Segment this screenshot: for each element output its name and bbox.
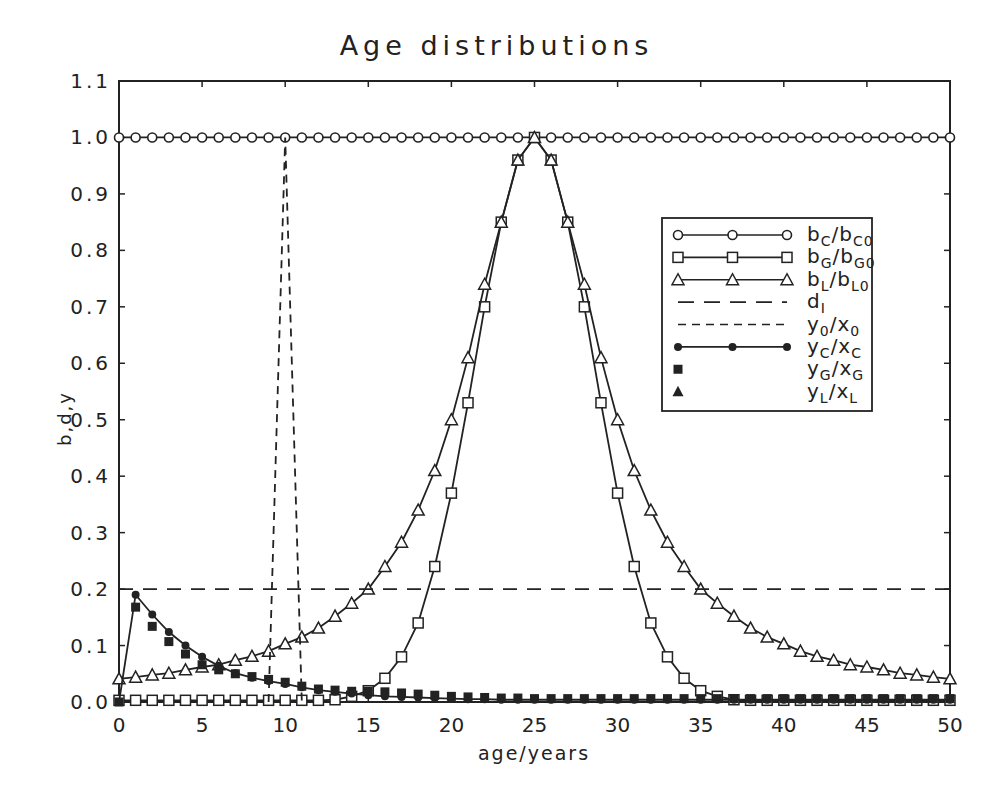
x-tick-label: 20 bbox=[439, 713, 464, 737]
triangle-marker-icon bbox=[462, 352, 474, 363]
filled-square-marker-icon bbox=[946, 694, 955, 703]
square-marker-icon bbox=[247, 695, 257, 705]
filled-square-marker-icon bbox=[414, 690, 423, 699]
circle-marker-icon bbox=[630, 133, 639, 142]
filled-square-marker-icon bbox=[674, 365, 683, 374]
circle-marker-icon bbox=[563, 133, 572, 142]
filled-circle-marker-icon bbox=[674, 343, 682, 351]
circle-marker-icon bbox=[547, 133, 556, 142]
filled-square-marker-icon bbox=[281, 678, 290, 687]
circle-marker-icon bbox=[214, 133, 223, 142]
filled-square-marker-icon bbox=[115, 698, 124, 707]
square-marker-icon bbox=[380, 673, 390, 683]
circle-marker-icon bbox=[796, 133, 805, 142]
circle-marker-icon bbox=[580, 133, 589, 142]
y-tick-label: 1.1 bbox=[70, 69, 111, 93]
filled-square-marker-icon bbox=[148, 622, 157, 631]
square-marker-icon bbox=[180, 695, 190, 705]
square-marker-icon bbox=[463, 398, 473, 408]
series-yC-xC bbox=[115, 591, 954, 706]
circle-marker-icon bbox=[347, 133, 356, 142]
x-tick-label: 25 bbox=[522, 713, 547, 737]
series-line bbox=[269, 137, 302, 702]
square-marker-icon bbox=[197, 695, 207, 705]
y-tick-label: 0.3 bbox=[70, 521, 111, 545]
circle-marker-icon bbox=[497, 133, 506, 142]
filled-square-marker-icon bbox=[131, 603, 140, 612]
filled-square-marker-icon bbox=[547, 694, 556, 703]
circle-marker-icon bbox=[397, 133, 406, 142]
triangle-marker-icon bbox=[745, 622, 757, 633]
square-marker-icon bbox=[446, 488, 456, 498]
filled-circle-marker-icon bbox=[165, 628, 173, 636]
filled-square-marker-icon bbox=[497, 694, 506, 703]
square-marker-icon bbox=[280, 695, 290, 705]
square-marker-icon bbox=[397, 652, 407, 662]
filled-square-marker-icon bbox=[862, 694, 871, 703]
filled-square-marker-icon bbox=[397, 688, 406, 697]
triangle-marker-icon bbox=[445, 414, 457, 425]
circle-marker-icon bbox=[946, 133, 955, 142]
square-marker-icon bbox=[147, 695, 157, 705]
filled-square-marker-icon bbox=[430, 691, 439, 700]
triangle-marker-icon bbox=[761, 631, 773, 642]
filled-square-marker-icon bbox=[713, 694, 722, 703]
y-tick-label: 0.5 bbox=[70, 408, 111, 432]
y-tick-label: 0.4 bbox=[70, 464, 111, 488]
filled-square-marker-icon bbox=[896, 694, 905, 703]
square-marker-icon bbox=[646, 618, 656, 628]
filled-square-marker-icon bbox=[680, 694, 689, 703]
filled-square-marker-icon bbox=[779, 694, 788, 703]
square-marker-icon bbox=[230, 695, 240, 705]
square-marker-icon bbox=[782, 252, 792, 262]
square-marker-icon bbox=[330, 695, 340, 705]
circle-marker-icon bbox=[331, 133, 340, 142]
square-marker-icon bbox=[596, 398, 606, 408]
circle-marker-icon bbox=[783, 231, 792, 240]
filled-square-marker-icon bbox=[231, 669, 240, 678]
y-tick-label: 0.6 bbox=[70, 351, 111, 375]
circle-marker-icon bbox=[713, 133, 722, 142]
filled-square-marker-icon bbox=[663, 694, 672, 703]
circle-marker-icon bbox=[879, 133, 888, 142]
filled-square-marker-icon bbox=[464, 692, 473, 701]
triangle-marker-icon bbox=[612, 414, 624, 425]
triangle-marker-icon bbox=[628, 465, 640, 476]
square-marker-icon bbox=[629, 562, 639, 572]
filled-square-marker-icon bbox=[480, 693, 489, 702]
filled-square-marker-icon bbox=[447, 692, 456, 701]
circle-marker-icon bbox=[430, 133, 439, 142]
filled-circle-marker-icon bbox=[783, 343, 791, 351]
circle-marker-icon bbox=[464, 133, 473, 142]
circle-marker-icon bbox=[829, 133, 838, 142]
y-tick-label: 0.7 bbox=[70, 295, 111, 319]
square-marker-icon bbox=[673, 252, 683, 262]
filled-square-marker-icon bbox=[164, 637, 173, 646]
x-tick-label: 10 bbox=[272, 713, 297, 737]
filled-square-marker-icon bbox=[696, 694, 705, 703]
filled-circle-marker-icon bbox=[132, 591, 140, 599]
circle-marker-icon bbox=[929, 133, 938, 142]
filled-square-marker-icon bbox=[879, 694, 888, 703]
circle-marker-icon bbox=[131, 133, 140, 142]
x-tick-label: 35 bbox=[688, 713, 713, 737]
square-marker-icon bbox=[313, 695, 323, 705]
filled-square-marker-icon bbox=[563, 694, 572, 703]
triangle-marker-icon bbox=[595, 352, 607, 363]
circle-marker-icon bbox=[646, 133, 655, 142]
circle-marker-icon bbox=[896, 133, 905, 142]
y-axis-label: b,d,y bbox=[54, 369, 75, 469]
triangle-marker-icon bbox=[379, 561, 391, 572]
filled-square-marker-icon bbox=[380, 687, 389, 696]
filled-circle-marker-icon bbox=[729, 343, 737, 351]
y-tick-label: 0.0 bbox=[70, 690, 111, 714]
filled-square-marker-icon bbox=[746, 694, 755, 703]
circle-marker-icon bbox=[380, 133, 389, 142]
circle-marker-icon bbox=[813, 133, 822, 142]
filled-square-marker-icon bbox=[247, 672, 256, 681]
circle-marker-icon bbox=[447, 133, 456, 142]
y-tick-label: 0.1 bbox=[70, 634, 111, 658]
square-marker-icon bbox=[679, 673, 689, 683]
filled-square-marker-icon bbox=[729, 694, 738, 703]
circle-marker-icon bbox=[513, 133, 522, 142]
